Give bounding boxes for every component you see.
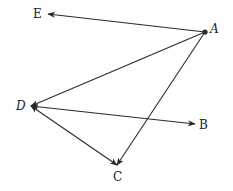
node-label-a: A — [209, 22, 219, 36]
edge-a-e — [48, 14, 205, 32]
directed-graph-diagram: ABCDE — [0, 0, 233, 191]
nodes-group: ABCDE — [15, 7, 219, 184]
edge-d-b — [31, 106, 195, 124]
edges-group — [31, 14, 205, 165]
node-label-c: C — [113, 170, 122, 184]
node-a-dot — [202, 29, 207, 34]
node-label-e: E — [33, 7, 42, 21]
node-label-b: B — [199, 118, 208, 132]
edge-d-c — [31, 106, 117, 165]
node-label-d: D — [15, 99, 26, 113]
edge-a-c — [117, 32, 205, 165]
edge-a-d — [31, 32, 205, 106]
